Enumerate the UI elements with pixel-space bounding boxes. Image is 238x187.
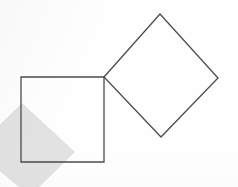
figure-canvas: Two adjoining squares Line drawing of an… [0,0,238,187]
geometry-figure-svg: Two adjoining squares Line drawing of an… [0,0,238,187]
